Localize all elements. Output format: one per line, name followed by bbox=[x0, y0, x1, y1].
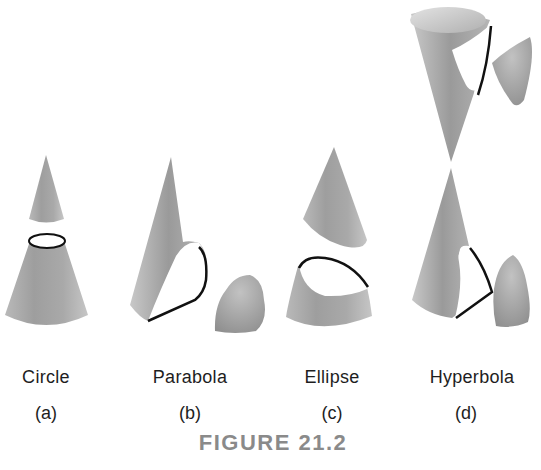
hyperbola-lower-cut-face bbox=[455, 246, 493, 318]
circle-top-cone bbox=[29, 155, 64, 223]
conic-sections-illustration bbox=[0, 0, 541, 470]
label-parabola: Parabola bbox=[153, 367, 227, 388]
sublabel-a: (a) bbox=[35, 403, 57, 424]
parabola-cap bbox=[215, 275, 265, 333]
hyperbola-upper-nappe bbox=[411, 11, 490, 162]
hyperbola-upper-rim bbox=[410, 7, 486, 33]
conic-sections-figure: Circle (a) Parabola (b) Ellipse (c) Hype… bbox=[0, 0, 541, 470]
circle-section bbox=[29, 234, 65, 248]
figure-caption: FIGURE 21.2 bbox=[199, 430, 348, 456]
circle-frustum bbox=[5, 241, 88, 325]
circle-cone-diagram bbox=[5, 155, 88, 325]
label-ellipse: Ellipse bbox=[304, 367, 359, 388]
label-circle: Circle bbox=[22, 367, 70, 388]
sublabel-c: (c) bbox=[322, 403, 343, 424]
sublabel-d: (d) bbox=[455, 403, 477, 424]
hyperbola-lower-cap bbox=[493, 255, 529, 327]
label-hyperbola: Hyperbola bbox=[430, 367, 515, 388]
hyperbola-upper-cap bbox=[492, 37, 532, 105]
ellipse-top-cone bbox=[303, 147, 367, 248]
sublabel-b: (b) bbox=[179, 403, 201, 424]
parabola-cone-diagram bbox=[130, 157, 265, 333]
ellipse-cone-diagram bbox=[286, 147, 372, 326]
hyperbola-cone-diagram bbox=[410, 7, 532, 327]
